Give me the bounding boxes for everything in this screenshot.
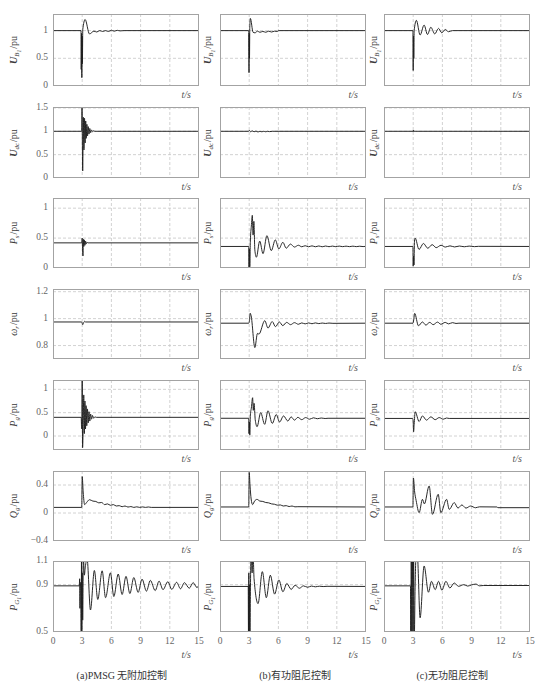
x-tick-label: 6	[109, 637, 114, 647]
y-axis-label: ωr/pu	[369, 312, 383, 336]
plot-frame	[385, 381, 530, 450]
x-axis-label: t/s	[349, 90, 358, 100]
y-axis-label: Udc/pu	[9, 129, 23, 157]
data-line	[220, 472, 366, 507]
panel-a-pg1: PG1/pu t/s 0.50.91.103691215	[53, 561, 199, 632]
x-tick-label: 3	[247, 637, 252, 647]
data-line	[220, 215, 366, 268]
caption-b: (b)有功阻尼控制	[215, 670, 375, 682]
y-axis-label: UB1/pu	[369, 36, 383, 64]
x-tick-label: 6	[440, 637, 445, 647]
y-symbol: P	[8, 421, 19, 427]
y-unit: /pu	[8, 583, 19, 596]
panel-a-ub1: UB1/pu t/s 00.51	[53, 14, 199, 86]
plot-frame	[54, 15, 199, 86]
y-symbol: P	[368, 238, 379, 244]
y-subscript: g	[373, 508, 381, 512]
y-subscript: B	[13, 53, 21, 57]
y-unit: /pu	[368, 222, 379, 235]
y-axis-label: Qg/pu	[203, 494, 217, 519]
panel-c-ub1: UB1/pu t/s	[384, 14, 530, 86]
plot-frame	[54, 290, 199, 359]
y-axis-label: PG1/pu	[203, 583, 217, 611]
data-line	[384, 130, 530, 132]
y-subscript: dc	[373, 142, 381, 149]
y-subsubscript: 1	[376, 596, 382, 599]
data-line	[53, 561, 199, 632]
y-subsubscript: 1	[16, 596, 22, 599]
y-subscript: G	[13, 599, 21, 604]
x-tick-label: 0	[382, 637, 387, 647]
plot-area	[220, 107, 366, 178]
y-unit: /pu	[202, 583, 213, 596]
plot-area	[220, 14, 366, 86]
y-subscript: s	[207, 235, 215, 238]
y-symbol: Q	[8, 511, 19, 518]
panel-c-ps: Ps/pu t/s	[384, 198, 530, 268]
panel-b-wr: ωr/pu t/s	[220, 289, 366, 359]
y-axis-label: Udc/pu	[203, 129, 217, 157]
y-subscript: g	[373, 417, 381, 421]
caption-c: (c)无功阻尼控制	[372, 670, 532, 682]
y-symbol: P	[202, 238, 213, 244]
y-symbol: P	[202, 421, 213, 427]
y-subscript: g	[207, 508, 215, 512]
x-axis-label: t/s	[513, 545, 522, 555]
y-unit: /pu	[368, 583, 379, 596]
y-symbol: U	[368, 57, 379, 64]
plot-area	[220, 380, 366, 450]
y-subscript: s	[373, 235, 381, 238]
plot-area	[53, 14, 199, 86]
x-axis-label: t/s	[349, 650, 358, 660]
y-unit: /pu	[8, 129, 19, 142]
plot-area	[384, 471, 530, 541]
panel-c-udc: Udc/pu t/s	[384, 107, 530, 178]
y-unit: /pu	[8, 36, 19, 49]
y-subscript: s	[13, 235, 21, 238]
y-symbol: P	[368, 421, 379, 427]
x-axis-label: t/s	[182, 650, 191, 660]
y-symbol: U	[8, 149, 19, 156]
y-tick-label: 1	[43, 127, 48, 137]
x-axis-label: t/s	[349, 182, 358, 192]
y-tick-label: 0	[43, 263, 48, 273]
y-symbol: ω	[8, 329, 19, 336]
y-axis-label: Ps/pu	[369, 222, 383, 245]
x-tick-label: 12	[496, 637, 506, 647]
x-tick-label: 12	[332, 637, 342, 647]
y-tick-label: 1	[43, 203, 48, 213]
y-symbol: ω	[368, 329, 379, 336]
data-line	[220, 398, 366, 435]
data-line	[384, 478, 530, 514]
y-axis-label: PG1/pu	[9, 583, 23, 611]
x-tick-label: 9	[305, 637, 310, 647]
data-line	[53, 380, 199, 448]
y-symbol: P	[8, 604, 19, 610]
x-tick-label: 0	[218, 637, 223, 647]
y-tick-label: 0.5	[36, 408, 48, 418]
panel-b-udc: Udc/pu t/s	[220, 107, 366, 178]
y-subsubscript: 1	[210, 596, 216, 599]
y-axis-label: ωr/pu	[9, 312, 23, 336]
y-subscript: G	[373, 599, 381, 604]
y-unit: /pu	[368, 494, 379, 507]
x-axis-label: t/s	[182, 363, 191, 373]
panel-a-qg: Qg/pu t/s −0.400.4	[53, 471, 199, 541]
y-unit: /pu	[202, 494, 213, 507]
plot-area	[384, 198, 530, 268]
y-unit: /pu	[8, 494, 19, 507]
plot-area	[53, 471, 199, 541]
x-axis-label: t/s	[513, 454, 522, 464]
x-axis-label: t/s	[349, 454, 358, 464]
y-axis-label: UB1/pu	[9, 36, 23, 64]
plot-frame	[221, 290, 366, 359]
y-axis-label: Qg/pu	[9, 494, 23, 519]
y-axis-label: Pg/pu	[369, 403, 383, 426]
plot-area	[384, 561, 530, 632]
plot-frame	[221, 562, 366, 632]
y-unit: /pu	[202, 36, 213, 49]
x-tick-label: 9	[138, 637, 143, 647]
y-axis-label: Ps/pu	[9, 222, 23, 245]
plot-frame	[54, 199, 199, 268]
data-line	[384, 238, 530, 266]
